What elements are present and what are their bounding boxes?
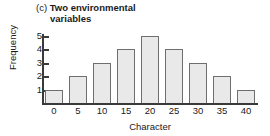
x-axis-tick-label: 10 [90, 106, 114, 116]
y-axis-label: Frequency [7, 18, 18, 78]
bar [165, 49, 184, 103]
bar [45, 90, 64, 103]
bar [189, 63, 208, 103]
x-axis-tick-label: 35 [210, 106, 234, 116]
bar [237, 90, 256, 103]
y-axis-tick-label: 2 [28, 71, 42, 81]
y-axis-tick-label: 3 [28, 58, 42, 68]
x-axis-tick-label: 30 [186, 106, 210, 116]
x-axis-tick-label: 0 [42, 106, 66, 116]
x-axis-tick-label: 5 [66, 106, 90, 116]
plot-area [42, 36, 258, 103]
x-axis-label: Character [42, 121, 258, 132]
y-axis-tick-label: 5 [28, 31, 42, 41]
histogram-figure: (c) Two environmental variables Frequenc… [0, 0, 270, 136]
x-axis-tick-label: 20 [138, 106, 162, 116]
x-axis-tick-label: 40 [234, 106, 258, 116]
x-axis-tick-label: 15 [114, 106, 138, 116]
y-axis-tick-label: 4 [28, 44, 42, 54]
y-axis-tick-label: 1 [28, 85, 42, 95]
bar [141, 36, 160, 103]
bar [213, 76, 232, 103]
figure-title-text: Two environmental [50, 2, 136, 13]
figure-title-line-2: variables [36, 13, 236, 24]
x-axis-tick-label: 25 [162, 106, 186, 116]
bar [117, 49, 136, 103]
figure-title-line-1: (c) Two environmental [36, 2, 236, 13]
figure-title: (c) Two environmental variables [36, 2, 236, 24]
bar [69, 76, 88, 103]
panel-letter: (c) [36, 2, 47, 13]
bar [93, 63, 112, 103]
